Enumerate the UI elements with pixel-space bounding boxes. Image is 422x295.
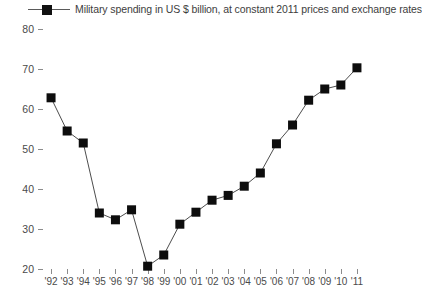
x-axis-tick-label: '92 bbox=[45, 277, 58, 287]
y-axis-tick-label: 40 bbox=[22, 184, 34, 194]
x-axis-tick-label: '98 bbox=[141, 277, 154, 287]
y-axis-tick-label: 70 bbox=[22, 64, 34, 74]
x-axis-tick-label: '00 bbox=[173, 277, 186, 287]
data-point-marker bbox=[256, 169, 265, 178]
x-axis-tick bbox=[99, 269, 100, 274]
data-point-marker bbox=[127, 205, 136, 214]
data-point-marker bbox=[47, 93, 56, 102]
x-axis-tick bbox=[276, 269, 277, 274]
x-axis-tick bbox=[51, 269, 52, 274]
x-axis-tick bbox=[357, 269, 358, 274]
x-axis-tick-label: '97 bbox=[125, 277, 138, 287]
data-point-marker bbox=[240, 182, 249, 191]
plot-area: 20304050607080 '92'93'94'95'96'97'98'99'… bbox=[43, 29, 365, 269]
x-axis-tick bbox=[180, 269, 181, 274]
x-axis-tick-label: '04 bbox=[238, 277, 251, 287]
data-point-marker bbox=[288, 121, 297, 130]
chart-legend: Military spending in US $ billion, at co… bbox=[28, 4, 422, 15]
x-axis-tick-label: '11 bbox=[351, 277, 363, 287]
x-axis-tick-label: '05 bbox=[254, 277, 267, 287]
data-point-marker bbox=[63, 127, 72, 136]
x-axis-tick-label: '93 bbox=[61, 277, 74, 287]
data-point-marker bbox=[191, 208, 200, 217]
x-axis-tick bbox=[309, 269, 310, 274]
legend-label: Military spending in US $ billion, at co… bbox=[70, 4, 422, 15]
x-axis-tick-label: '03 bbox=[222, 277, 235, 287]
x-axis-tick-label: '95 bbox=[93, 277, 106, 287]
y-axis-tick-label: 20 bbox=[22, 264, 34, 274]
y-axis-tick bbox=[38, 269, 43, 270]
x-axis-tick bbox=[212, 269, 213, 274]
y-axis-tick-label: 60 bbox=[22, 104, 34, 114]
x-axis-tick-label: '08 bbox=[302, 277, 315, 287]
x-axis-tick bbox=[164, 269, 165, 274]
data-point-marker bbox=[272, 139, 281, 148]
data-point-marker bbox=[224, 191, 233, 200]
data-point-marker bbox=[111, 215, 120, 224]
x-axis-tick bbox=[228, 269, 229, 274]
x-axis-tick bbox=[244, 269, 245, 274]
x-axis-tick bbox=[115, 269, 116, 274]
y-axis-tick-label: 30 bbox=[22, 224, 34, 234]
data-point-marker bbox=[208, 196, 217, 205]
data-point-marker bbox=[79, 139, 88, 148]
x-axis-tick-label: '96 bbox=[109, 277, 122, 287]
x-axis-tick bbox=[196, 269, 197, 274]
data-series-military-spending bbox=[43, 29, 365, 269]
filled-square-marker-icon bbox=[28, 4, 70, 15]
x-axis-tick-label: '99 bbox=[157, 277, 170, 287]
data-point-marker bbox=[336, 81, 345, 90]
y-axis-tick-label: 50 bbox=[22, 144, 34, 154]
data-point-marker bbox=[95, 209, 104, 218]
x-axis-tick-label: '01 bbox=[189, 277, 202, 287]
data-point-marker bbox=[143, 262, 152, 271]
data-point-marker bbox=[159, 251, 168, 260]
x-axis-tick-label: '07 bbox=[286, 277, 299, 287]
data-point-marker bbox=[352, 63, 361, 72]
data-point-marker bbox=[175, 220, 184, 229]
data-point-marker bbox=[320, 85, 329, 94]
x-axis-tick bbox=[260, 269, 261, 274]
x-axis-tick bbox=[293, 269, 294, 274]
x-axis-tick-label: '94 bbox=[77, 277, 90, 287]
x-axis-tick-label: '10 bbox=[334, 277, 347, 287]
x-axis-tick-label: '02 bbox=[206, 277, 219, 287]
x-axis-tick bbox=[325, 269, 326, 274]
x-axis-tick bbox=[341, 269, 342, 274]
data-point-marker bbox=[304, 96, 313, 105]
x-axis-tick bbox=[67, 269, 68, 274]
x-axis-tick-label: '09 bbox=[318, 277, 331, 287]
y-axis-tick-label: 80 bbox=[22, 24, 34, 34]
x-axis-tick bbox=[83, 269, 84, 274]
x-axis-tick-label: '06 bbox=[270, 277, 283, 287]
x-axis-tick bbox=[132, 269, 133, 274]
